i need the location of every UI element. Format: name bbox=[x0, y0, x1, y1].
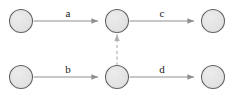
graph-node-top-center[interactable] bbox=[106, 10, 129, 33]
edge-b: b bbox=[34, 63, 99, 77]
graph-node-bottom-right[interactable] bbox=[202, 66, 225, 89]
edge-a: a bbox=[34, 7, 99, 21]
graph-svg-root: a c b d bbox=[0, 0, 234, 99]
edge-label-b: b bbox=[65, 63, 71, 75]
graph-node-top-right[interactable] bbox=[202, 10, 225, 33]
graph-node-top-left[interactable] bbox=[10, 10, 33, 33]
graph-node-bottom-center[interactable] bbox=[106, 66, 129, 89]
edge-d: d bbox=[130, 63, 195, 77]
graph-node-bottom-left[interactable] bbox=[10, 66, 33, 89]
graph-diagram-canvas: a c b d bbox=[0, 0, 234, 99]
edge-label-c: c bbox=[160, 7, 165, 19]
edge-c: c bbox=[130, 7, 195, 21]
edge-label-d: d bbox=[159, 63, 165, 75]
edge-label-a: a bbox=[66, 7, 71, 19]
